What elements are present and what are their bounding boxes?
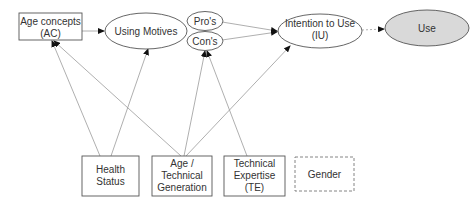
edge-agegen-to-iu <box>186 46 290 156</box>
age-generation-line1: Age / <box>170 158 194 169</box>
edge-pros-to-iu <box>222 22 277 31</box>
pros-label: Pro's <box>194 16 216 27</box>
node-age-technical-generation: Age / Technical Generation <box>152 156 212 196</box>
technical-expertise-line1: Technical <box>234 158 276 169</box>
edge-cons-to-iu <box>222 32 277 40</box>
node-age-concepts: Age concepts (AC) <box>19 13 82 40</box>
intention-label: Intention to Use <box>285 18 355 29</box>
edge-iu-to-use <box>362 29 384 30</box>
health-status-line2: Status <box>96 176 124 187</box>
technical-expertise-line3: (TE) <box>245 182 264 193</box>
gender-label: Gender <box>308 169 342 180</box>
edge-te-to-cons <box>207 51 247 156</box>
research-model-diagram: Age concepts (AC) Using Motives Pro's Co… <box>0 0 476 205</box>
age-concepts-abbrev: (AC) <box>40 28 61 39</box>
use-label: Use <box>418 23 436 34</box>
cons-label: Con's <box>192 36 217 47</box>
technical-expertise-line2: Expertise <box>234 170 276 181</box>
using-motives-label: Using Motives <box>115 26 178 37</box>
node-cons: Con's <box>187 32 223 51</box>
edge-agegen-to-cons <box>184 51 205 156</box>
age-generation-line2: Technical <box>161 170 203 181</box>
edge-health-to-motives <box>111 49 148 156</box>
node-use: Use <box>385 10 469 46</box>
health-status-line1: Health <box>96 164 125 175</box>
node-health-status: Health Status <box>82 156 139 196</box>
node-using-motives: Using Motives <box>105 13 187 49</box>
edge-agegen-to-ac <box>54 41 181 156</box>
node-intention-to-use: Intention to Use (IU) <box>278 14 362 48</box>
intention-abbrev: (IU) <box>312 30 329 41</box>
node-technical-expertise: Technical Expertise (TE) <box>224 156 285 196</box>
node-gender: Gender <box>295 157 354 191</box>
age-concepts-label: Age concepts <box>20 16 81 27</box>
node-pros: Pro's <box>187 12 223 31</box>
edge-health-to-ac <box>52 41 100 156</box>
age-generation-line3: Generation <box>157 182 206 193</box>
